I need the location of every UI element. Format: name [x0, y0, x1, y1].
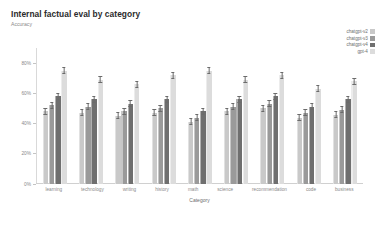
- bar-wrapper: [121, 111, 126, 184]
- bar[interactable]: [206, 71, 211, 184]
- x-axis-tick-label: technology: [81, 186, 104, 196]
- error-bar-cap-top: [44, 108, 47, 109]
- bar[interactable]: [333, 115, 338, 185]
- legend-color-swatch: [370, 36, 375, 41]
- bar[interactable]: [188, 122, 193, 184]
- error-bar-cap-top: [171, 72, 174, 73]
- bar-group: [297, 48, 321, 184]
- error-bar-cap-bottom: [334, 117, 337, 118]
- bar[interactable]: [224, 111, 229, 184]
- bar[interactable]: [152, 113, 157, 184]
- error-bar-cap-bottom: [244, 82, 247, 83]
- error-bar-cap-top: [207, 67, 210, 68]
- error-bar-cap-bottom: [153, 115, 156, 116]
- error-bar-cap-top: [268, 100, 271, 101]
- bar[interactable]: [273, 96, 278, 184]
- bar[interactable]: [55, 96, 60, 184]
- bar-wrapper: [55, 96, 60, 184]
- bar[interactable]: [91, 99, 96, 184]
- bar[interactable]: [134, 84, 139, 184]
- bar[interactable]: [85, 107, 90, 184]
- bar-wrapper: [267, 104, 272, 184]
- error-bar-cap-top: [340, 106, 343, 107]
- bar-group: [333, 48, 357, 184]
- bar[interactable]: [351, 81, 356, 184]
- error-bar-cap-bottom: [304, 115, 307, 116]
- error-bar-cap-top: [298, 114, 301, 115]
- bar-wrapper: [194, 118, 199, 184]
- x-axis-tick-label: business: [335, 186, 354, 196]
- bar[interactable]: [128, 104, 133, 184]
- bar-wrapper: [128, 104, 133, 184]
- error-bar-cap-bottom: [129, 106, 132, 107]
- bar[interactable]: [98, 80, 103, 184]
- bar-wrapper: [152, 113, 157, 184]
- error-bar-cap-bottom: [340, 112, 343, 113]
- bar[interactable]: [43, 111, 48, 184]
- bar[interactable]: [79, 113, 84, 184]
- y-axis-tick-mark: [33, 123, 36, 124]
- bar[interactable]: [200, 111, 205, 184]
- bar[interactable]: [339, 110, 344, 184]
- bar[interactable]: [236, 99, 241, 184]
- bar[interactable]: [61, 71, 66, 184]
- error-bar-cap-top: [135, 81, 138, 82]
- bar[interactable]: [303, 113, 308, 184]
- bar[interactable]: [164, 99, 169, 184]
- bar[interactable]: [49, 105, 54, 184]
- legend-color-swatch: [370, 43, 375, 48]
- error-bar-cap-bottom: [44, 114, 47, 115]
- error-bar-cap-bottom: [135, 87, 138, 88]
- bar-wrapper: [200, 111, 205, 184]
- x-axis-tick-label: recommendation: [252, 186, 287, 196]
- bar[interactable]: [121, 111, 126, 184]
- error-bar-cap-top: [56, 93, 59, 94]
- chart-container: Internal factual eval by category Accura…: [0, 0, 381, 226]
- x-axis-tick-label: learning: [45, 186, 62, 196]
- error-bar-cap-bottom: [352, 84, 355, 85]
- error-bar-cap-bottom: [189, 124, 192, 125]
- bar[interactable]: [194, 118, 199, 184]
- error-bar-cap-top: [153, 109, 156, 110]
- error-bar-cap-top: [165, 96, 168, 97]
- error-bar-cap-top: [304, 109, 307, 110]
- error-bar-cap-bottom: [92, 102, 95, 103]
- error-bar-cap-bottom: [231, 109, 234, 110]
- error-bar-cap-top: [231, 103, 234, 104]
- bar[interactable]: [158, 108, 163, 184]
- legend-item[interactable]: chatgpt-v2: [346, 29, 375, 34]
- bar[interactable]: [315, 89, 320, 184]
- x-axis-tick-label: math: [188, 186, 198, 196]
- bar[interactable]: [115, 116, 120, 184]
- error-bar-cap-bottom: [80, 115, 83, 116]
- bar-group: [79, 48, 103, 184]
- bar[interactable]: [309, 107, 314, 184]
- bar-wrapper: [243, 80, 248, 184]
- bar[interactable]: [260, 108, 265, 184]
- bar-wrapper: [279, 75, 284, 184]
- bar[interactable]: [170, 75, 175, 184]
- bar[interactable]: [267, 104, 272, 184]
- bar-wrapper: [351, 81, 356, 184]
- bar[interactable]: [230, 107, 235, 184]
- bar-wrapper: [345, 99, 350, 184]
- bar-wrapper: [170, 75, 175, 184]
- error-bar-cap-bottom: [56, 99, 59, 100]
- error-bar-cap-top: [62, 67, 65, 68]
- error-bar-cap-top: [334, 111, 337, 112]
- y-axis-tick-label: 0%: [24, 182, 31, 187]
- bar[interactable]: [345, 99, 350, 184]
- bar[interactable]: [297, 118, 302, 184]
- bar-group: [152, 48, 176, 184]
- bar-group: [115, 48, 139, 184]
- bar[interactable]: [243, 80, 248, 184]
- legend-item[interactable]: chatgpt-v4: [346, 42, 375, 47]
- bar[interactable]: [279, 75, 284, 184]
- legend-item[interactable]: chatgpt-v3: [346, 36, 375, 41]
- y-axis-tick-mark: [33, 93, 36, 94]
- error-bar-cap-bottom: [225, 114, 228, 115]
- bar-wrapper: [236, 99, 241, 184]
- bar-group: [224, 48, 248, 184]
- error-bar-cap-top: [310, 103, 313, 104]
- error-bar-cap-top: [189, 118, 192, 119]
